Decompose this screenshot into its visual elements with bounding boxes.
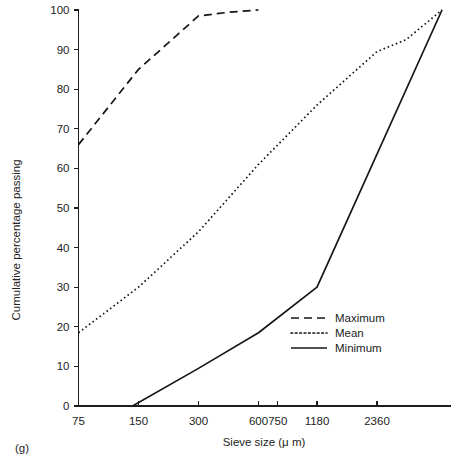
data-series-group [79,10,443,406]
y-tick-label: 40 [57,242,70,254]
x-tick-label: 75 [72,415,85,427]
y-tick-label: 30 [57,281,70,293]
y-tick-label: 100 [50,4,69,16]
y-tick-label: 70 [57,123,70,135]
y-tick-label: 20 [57,321,70,333]
x-tick-label: 750 [268,415,287,427]
series-line-minimum [133,10,442,406]
y-axis-ticks: 0102030405060708090100 [50,4,78,412]
y-axis-title: Cumulative percentage passing [10,159,22,320]
x-tick-label: 2360 [364,415,390,427]
figure-container: 0102030405060708090100 75150300600750118… [0,0,458,466]
x-axis-title: Sieve size (μ m) [223,436,306,448]
y-tick-label: 50 [57,202,70,214]
x-tick-label: 1180 [305,415,330,427]
y-tick-label: 90 [57,44,70,56]
x-axis-ticks: 7515030060075011802360 [72,401,390,427]
series-line-mean [79,10,443,333]
x-tick-label: 300 [189,415,208,427]
axes-group [79,10,452,406]
sieve-grading-chart: 0102030405060708090100 75150300600750118… [0,0,458,466]
y-tick-label: 0 [63,400,69,412]
x-tick-label: 150 [129,415,148,427]
legend-label-maximum: Maximum [335,312,385,324]
y-tick-label: 80 [57,83,70,95]
legend-label-minimum: Minimum [335,342,382,354]
panel-label: (g) [15,442,29,454]
chart-legend: MaximumMeanMinimum [291,312,385,354]
y-tick-label: 60 [57,162,70,174]
x-tick-label: 600 [249,415,268,427]
y-tick-label: 10 [57,360,70,372]
series-line-maximum [79,10,259,145]
legend-label-mean: Mean [335,327,364,339]
